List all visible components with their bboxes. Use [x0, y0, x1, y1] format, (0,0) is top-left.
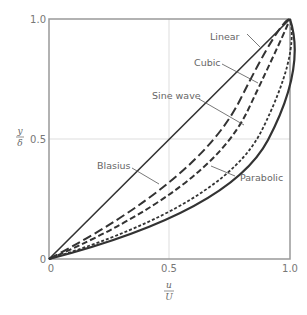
label-sine: Sine wave	[152, 90, 201, 101]
label-cubic: Cubic	[194, 57, 221, 68]
y-label-num: y	[16, 126, 23, 136]
leader-sine	[199, 99, 244, 125]
xtick-0: 0	[48, 263, 54, 274]
ytick-0: 0	[40, 254, 46, 265]
leader-parabolic	[211, 166, 235, 176]
x-axis-label: u U	[164, 280, 174, 302]
ytick-05: 0.5	[30, 134, 46, 145]
leader-blasius	[132, 168, 159, 184]
x-label-num: u	[166, 280, 172, 290]
y-axis-label: y δ	[16, 126, 24, 148]
xtick-1: 1.0	[282, 263, 298, 274]
label-parabolic: Parabolic	[240, 172, 283, 183]
x-label-den: U	[165, 292, 173, 302]
leader-linear	[247, 34, 260, 47]
xtick-05: 0.5	[161, 263, 177, 274]
label-blasius: Blasius	[97, 160, 131, 171]
label-linear: Linear	[210, 31, 240, 42]
ytick-1: 1.0	[30, 14, 46, 25]
y-label-den: δ	[17, 138, 22, 148]
chart: Linear Cubic Sine wave Blasius Parabolic…	[0, 0, 307, 315]
